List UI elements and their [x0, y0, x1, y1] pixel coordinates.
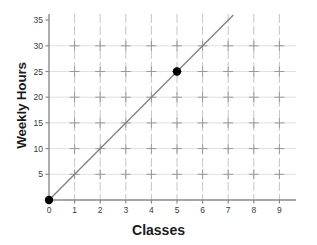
y-tick-label: 30: [34, 41, 44, 51]
x-tick-label: 1: [72, 205, 77, 215]
y-axis-ticks: 5101520253035: [34, 15, 49, 179]
line-chart: Weekly Hours 51015202530350123456789 Cla…: [0, 0, 317, 245]
y-tick-label: 5: [38, 169, 43, 179]
y-tick-label: 25: [34, 67, 44, 77]
y-tick-label: 10: [34, 144, 44, 154]
x-tick-label: 9: [277, 205, 282, 215]
y-tick-label: 15: [34, 118, 44, 128]
x-axis-ticks: 0123456789: [47, 200, 282, 215]
y-tick-label: 35: [34, 15, 44, 25]
x-tick-label: 4: [149, 205, 154, 215]
axes: [49, 14, 296, 200]
series-line: [49, 15, 233, 200]
data-point[interactable]: [45, 196, 53, 204]
x-tick-label: 8: [251, 205, 256, 215]
x-tick-label: 6: [200, 205, 205, 215]
x-tick-label: 3: [123, 205, 128, 215]
y-tick-label: 20: [34, 92, 44, 102]
x-tick-label: 2: [98, 205, 103, 215]
x-axis-label: Classes: [0, 222, 317, 238]
x-tick-label: 0: [47, 205, 52, 215]
data-series: [49, 15, 233, 200]
data-point[interactable]: [173, 67, 181, 75]
x-tick-label: 5: [175, 205, 180, 215]
plot-area: 51015202530350123456789: [0, 0, 317, 245]
gridlines: [49, 14, 296, 200]
x-tick-label: 7: [226, 205, 231, 215]
